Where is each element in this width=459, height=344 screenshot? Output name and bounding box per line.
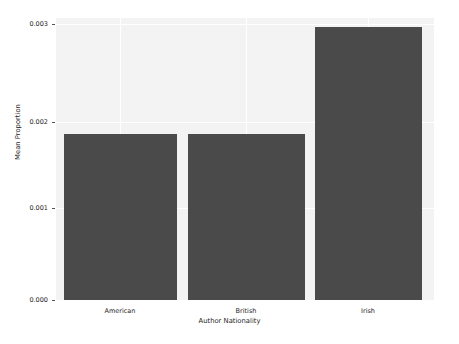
xtick-label-irish: Irish [328,308,408,315]
ytick-label-0.001: 0.001 [4,205,48,212]
y-axis-title-text: Mean Proportion [14,92,22,172]
xtick-label-american: American [80,308,160,315]
ytick-label-0.000: 0.000 [4,297,48,304]
chart-figure: 0.003 0.002 0.001 0.000 American British… [0,0,459,344]
ytick-mark-0.003 [52,24,55,25]
ytick-mark-0.001 [52,208,55,209]
ytick-label-0.003: 0.003 [4,21,48,28]
gridline-y-0.003 [56,24,434,25]
gridline-y-0.000 [56,300,434,301]
ytick-label-0.002: 0.002 [4,119,48,126]
bar-british [188,134,305,300]
ytick-mark-0.002 [52,122,55,123]
ytick-mark-0.000 [52,300,55,301]
bar-irish [315,27,422,300]
xtick-label-british: British [206,308,286,315]
bar-american [64,134,177,300]
y-axis-title: Mean Proportion [14,52,22,132]
plot-area [56,18,434,301]
x-axis-title: Author Nationality [0,317,459,325]
